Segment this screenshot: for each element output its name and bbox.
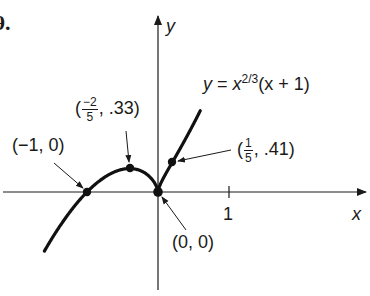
equation-eq: = (217, 74, 228, 94)
leader-local-max (126, 131, 129, 162)
label-cusp: (0, 0) (172, 233, 214, 251)
x-tick-label: 1 (223, 205, 233, 223)
fraction: 15 (244, 137, 253, 164)
function-curve (44, 111, 200, 251)
fraction: −25 (82, 96, 98, 123)
label-inflection: (15, .41) (237, 137, 295, 164)
equation-lhs: y (203, 74, 212, 94)
label-local-max: (−25, .33) (75, 96, 140, 123)
point-local-max (126, 164, 134, 172)
point-inflection (168, 158, 176, 166)
equation-exponent: 2/3 (242, 72, 259, 86)
point-root-left (83, 188, 91, 196)
label-root-left: (−1, 0) (12, 136, 65, 154)
equation-factor: (x + 1) (258, 74, 310, 94)
point-cusp (153, 187, 163, 197)
problem-number: 9. (0, 10, 11, 36)
x-axis-label: x (352, 205, 361, 223)
graph-figure: 9. y x 1 y = x2/3(x + 1) (−1, 0) (−25, .… (0, 0, 370, 296)
y-axis-label: y (166, 17, 175, 35)
equation-label: y = x2/3(x + 1) (203, 73, 310, 93)
leader-cusp (162, 197, 186, 230)
leader-root-left (54, 163, 83, 188)
equation-base: x (233, 74, 242, 94)
leader-inflection (178, 150, 231, 161)
